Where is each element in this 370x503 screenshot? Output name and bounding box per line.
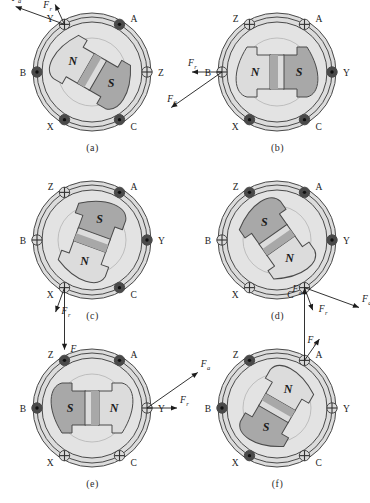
coil-label-x: X bbox=[232, 122, 239, 132]
force-label: Fa bbox=[11, 0, 22, 4]
rotor-magnet: NS bbox=[51, 383, 133, 433]
current-out-dot-icon bbox=[330, 238, 333, 241]
force-label-subscript: a bbox=[18, 0, 21, 4]
rotor-magnet: NS bbox=[236, 47, 318, 97]
coil-marker-y[interactable]: Y bbox=[327, 403, 350, 414]
current-out-dot-icon bbox=[145, 238, 148, 241]
coil-label-a: A bbox=[316, 350, 323, 360]
coil-label-a: A bbox=[316, 14, 323, 24]
motor-panel-d: NSAZBXCYFaFr(d) bbox=[185, 168, 370, 336]
force-label-subscript: r bbox=[50, 5, 53, 12]
coil-label-y: Y bbox=[158, 236, 165, 246]
coil-label-x: X bbox=[232, 290, 239, 300]
figure-root: NSAYBXCZFrFa(a)NSAZBXCYFrFa(b)NSAZBXCYFr… bbox=[0, 0, 370, 503]
current-out-dot-icon bbox=[118, 359, 121, 362]
force-arrowhead-icon bbox=[192, 69, 198, 74]
force-arrowhead-icon bbox=[171, 405, 177, 410]
motor-panel-e: NSAZBXCYFaFr(e) bbox=[0, 336, 185, 503]
current-out-dot-icon bbox=[118, 118, 121, 121]
coil-label-b: B bbox=[20, 236, 26, 246]
rotor-north-label: N bbox=[250, 65, 261, 79]
panel-caption-c: (c) bbox=[0, 310, 185, 321]
current-out-dot-icon bbox=[63, 359, 66, 362]
rotor-south-label: S bbox=[263, 420, 270, 434]
coil-marker-b[interactable]: B bbox=[205, 235, 228, 246]
panel-caption-d: (d) bbox=[185, 310, 370, 321]
current-out-dot-icon bbox=[118, 286, 121, 289]
coil-label-b: B bbox=[20, 404, 26, 414]
force-label-subscript: a bbox=[174, 98, 177, 105]
current-out-dot-icon bbox=[118, 23, 121, 26]
rotor-shaft-shadow bbox=[91, 391, 99, 425]
coil-label-z: Z bbox=[48, 182, 54, 192]
rotor-south-label: S bbox=[67, 401, 74, 415]
coil-label-b: B bbox=[20, 68, 26, 78]
rotor-north-label: N bbox=[284, 251, 295, 265]
force-arrowhead-icon bbox=[16, 6, 23, 11]
rotor-south-label: S bbox=[108, 76, 115, 90]
coil-label-z: Z bbox=[233, 350, 239, 360]
force-label-subscript: a bbox=[299, 289, 302, 296]
motor-panel-b: NSAZBXCYFrFa(b) bbox=[185, 0, 370, 168]
motor-cross-section-b: NSAZBXCYFrFa bbox=[185, 0, 370, 150]
coil-label-c: C bbox=[316, 122, 322, 132]
current-out-dot-icon bbox=[330, 70, 333, 73]
current-out-dot-icon bbox=[35, 70, 38, 73]
coil-label-c: C bbox=[131, 122, 137, 132]
panel-caption-b: (b) bbox=[185, 142, 370, 153]
motor-cross-section-e: NSAZBXCYFaFr bbox=[0, 336, 185, 486]
coil-label-z: Z bbox=[48, 350, 54, 360]
coil-label-x: X bbox=[47, 290, 54, 300]
force-label: Fr bbox=[306, 335, 316, 347]
coil-label-y: Y bbox=[343, 68, 350, 78]
current-out-dot-icon bbox=[303, 191, 306, 194]
current-out-dot-icon bbox=[248, 118, 251, 121]
motor-cross-section-d: NSAZBXCYFaFr bbox=[185, 168, 370, 318]
coil-marker-y[interactable]: Y bbox=[327, 67, 350, 78]
coil-label-c: C bbox=[131, 290, 137, 300]
motor-panel-f: NSAZBXCYFaFr(f) bbox=[185, 336, 370, 503]
motor-panel-c: NSAZBXCYFrFa(c) bbox=[0, 168, 185, 336]
rotor-north-label: N bbox=[109, 401, 120, 415]
coil-marker-b[interactable]: B bbox=[20, 403, 43, 414]
force-arrowhead-icon bbox=[352, 303, 359, 308]
current-out-dot-icon bbox=[63, 118, 66, 121]
coil-marker-b[interactable]: B bbox=[20, 235, 43, 246]
coil-marker-b[interactable]: B bbox=[205, 403, 228, 414]
panel-caption-f: (f) bbox=[185, 478, 370, 489]
motor-cross-section-f: NSAZBXCYFaFr bbox=[185, 336, 370, 486]
panel-caption-a: (a) bbox=[0, 142, 185, 153]
motor-cross-section-c: NSAZBXCYFrFa bbox=[0, 168, 185, 318]
force-label: Fr bbox=[187, 58, 197, 70]
force-vector-fa: Fa bbox=[305, 288, 370, 308]
coil-label-a: A bbox=[131, 350, 138, 360]
rotor-north-label: N bbox=[283, 382, 294, 396]
motor-cross-section-a: NSAYBXCZFrFa bbox=[0, 0, 185, 150]
force-label: Fa bbox=[361, 294, 370, 306]
current-out-dot-icon bbox=[303, 118, 306, 121]
coil-marker-z[interactable]: Z bbox=[142, 67, 164, 78]
current-out-dot-icon bbox=[248, 359, 251, 362]
current-out-dot-icon bbox=[248, 454, 251, 457]
coil-label-a: A bbox=[316, 182, 323, 192]
coil-label-b: B bbox=[205, 404, 211, 414]
force-vector-fr: Fr bbox=[187, 58, 222, 75]
coil-label-z: Z bbox=[158, 68, 164, 78]
coil-label-y: Y bbox=[343, 404, 350, 414]
coil-label-b: B bbox=[205, 68, 211, 78]
coil-marker-y[interactable]: Y bbox=[142, 235, 165, 246]
coil-marker-b[interactable]: B bbox=[20, 67, 43, 78]
rotor-north-label: N bbox=[79, 254, 90, 268]
rotor-south-label: S bbox=[261, 215, 268, 229]
panel-caption-e: (e) bbox=[0, 478, 185, 489]
coil-label-z: Z bbox=[233, 14, 239, 24]
current-out-dot-icon bbox=[35, 406, 38, 409]
current-out-dot-icon bbox=[248, 191, 251, 194]
force-label: Fr bbox=[42, 0, 52, 12]
force-vector-fa: Fa bbox=[11, 0, 65, 24]
rotor-north-label: N bbox=[68, 54, 79, 68]
coil-label-x: X bbox=[47, 458, 54, 468]
coil-label-y: Y bbox=[343, 236, 350, 246]
coil-marker-y[interactable]: Y bbox=[327, 235, 350, 246]
rotor-shaft-shadow bbox=[270, 55, 278, 89]
